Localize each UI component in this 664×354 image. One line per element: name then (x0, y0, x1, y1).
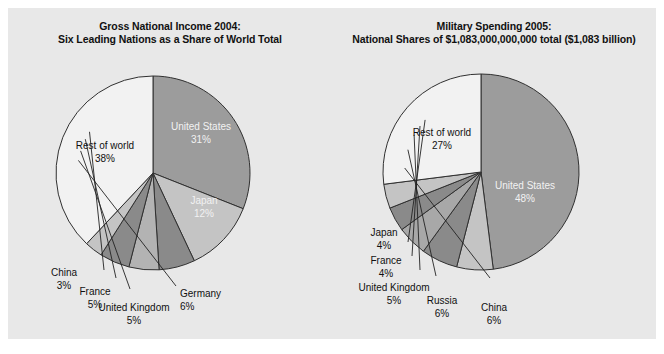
svg-text:5%: 5% (88, 299, 103, 310)
svg-text:United Kingdom: United Kingdom (358, 282, 429, 293)
pie-chart-military-spending: Military Spending 2005: National Shares … (332, 8, 656, 339)
pie-svg-right: United States48%Rest of world27%China6%R… (332, 8, 656, 339)
svg-text:31%: 31% (191, 134, 211, 145)
svg-text:4%: 4% (379, 268, 394, 279)
svg-text:Rest of world: Rest of world (413, 127, 471, 138)
svg-text:6%: 6% (487, 315, 502, 326)
svg-text:France: France (370, 255, 402, 266)
svg-text:6%: 6% (180, 301, 195, 312)
svg-text:Rest of world: Rest of world (76, 140, 134, 151)
svg-text:Germany: Germany (180, 288, 221, 299)
figure-root: Gross National Income 2004: Six Leading … (0, 0, 664, 354)
svg-text:6%: 6% (435, 308, 450, 319)
figure-panel: Gross National Income 2004: Six Leading … (8, 8, 656, 339)
svg-text:48%: 48% (515, 193, 535, 204)
svg-text:12%: 12% (194, 208, 214, 219)
svg-text:Russia: Russia (427, 295, 458, 306)
svg-text:Japan: Japan (190, 195, 217, 206)
svg-text:China: China (481, 302, 508, 313)
svg-text:38%: 38% (95, 153, 115, 164)
svg-text:France: France (79, 286, 111, 297)
svg-text:United States: United States (495, 180, 555, 191)
svg-text:3%: 3% (57, 280, 72, 291)
svg-text:27%: 27% (432, 140, 452, 151)
svg-text:5%: 5% (127, 315, 142, 326)
svg-text:China: China (51, 267, 78, 278)
svg-text:4%: 4% (377, 240, 392, 251)
svg-text:5%: 5% (387, 295, 402, 306)
pie-svg-left: United States31%Japan12%Rest of world38%… (8, 8, 332, 339)
svg-text:United States: United States (171, 121, 231, 132)
svg-text:United Kingdom: United Kingdom (98, 302, 169, 313)
pie-slice-united-states (481, 74, 579, 269)
pie-chart-gross-national-income: Gross National Income 2004: Six Leading … (8, 8, 332, 339)
svg-text:Japan: Japan (370, 227, 397, 238)
